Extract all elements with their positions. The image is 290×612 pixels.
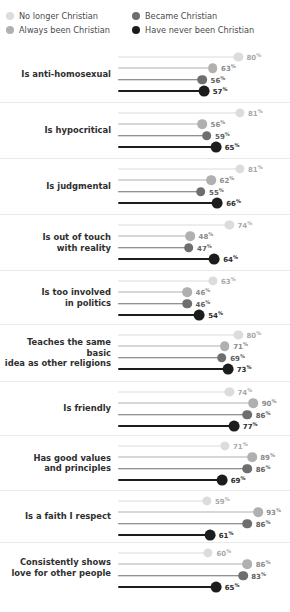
bar-value-label: 61% — [219, 530, 234, 540]
bar-line — [118, 457, 252, 458]
bar-dot — [204, 530, 215, 541]
bar-dot — [204, 548, 213, 557]
bar-dot — [198, 86, 209, 97]
bar-value-label: 47% — [197, 243, 212, 253]
bar-row: 89% — [118, 452, 290, 464]
bar-dot — [194, 310, 205, 321]
bar-value-label: 71% — [233, 341, 248, 351]
bar-dot — [235, 108, 244, 117]
bar-value-label: 86% — [256, 464, 271, 474]
bar-dot — [243, 464, 253, 474]
bar-value-label: 69% — [230, 353, 245, 363]
bar-row: 69% — [118, 352, 290, 364]
bar-rows: 80%71%69%73% — [118, 325, 290, 381]
legend-label: Have never been Christian — [145, 23, 254, 37]
bar-dot — [228, 421, 239, 432]
bar-rows: 63%46%46%54% — [118, 271, 290, 324]
bar-line — [118, 523, 247, 525]
bar-rows: 74%90%86%77% — [118, 382, 290, 435]
bar-row: 47% — [118, 242, 290, 254]
chart-group: Is anti-homosexual80%63%56%57% — [0, 47, 290, 102]
chart-group: Is hypocritical81%56%59%65% — [0, 102, 290, 158]
legend: No longer Christian Became Christian Alw… — [0, 0, 290, 37]
bar-dot — [185, 231, 195, 241]
bar-rows: 60%86%83%65% — [118, 543, 290, 592]
bar-line — [118, 112, 240, 113]
bar-dot — [253, 507, 263, 517]
category-label: Has good values and principles — [0, 453, 118, 474]
legend-label: No longer Christian — [19, 9, 98, 23]
bar-value-label: 60% — [216, 548, 231, 558]
bar-line — [118, 346, 225, 347]
bar-row: 71% — [118, 440, 290, 452]
bar-row: 46% — [118, 287, 290, 299]
bar-line — [118, 403, 253, 404]
bar-value-label: 66% — [226, 198, 241, 208]
category-label: Is anti-homosexual — [0, 69, 118, 80]
bar-value-label: 65% — [225, 582, 240, 592]
bar-row: 77% — [118, 421, 290, 433]
bar-dot — [225, 220, 234, 229]
bar-row: 90% — [118, 398, 290, 410]
bar-dot — [225, 387, 234, 396]
bar-value-label: 56% — [211, 119, 226, 129]
bar-line — [118, 79, 202, 81]
bar-value-label: 55% — [209, 187, 224, 197]
bar-line — [118, 68, 213, 69]
bar-value-label: 93% — [266, 507, 281, 517]
bar-line — [118, 425, 234, 427]
bar-value-label: 89% — [260, 452, 275, 462]
bar-value-label: 56% — [211, 75, 226, 85]
bar-line — [118, 280, 213, 281]
lollipop-chart: Is anti-homosexual80%63%56%57%Is hypocri… — [0, 47, 290, 592]
bar-row: 74% — [118, 219, 290, 231]
bar-dot — [222, 364, 233, 375]
bar-dot — [217, 353, 227, 363]
bar-line — [118, 479, 222, 481]
bar-value-label: 86% — [256, 559, 271, 569]
category-label: Consistently shows love for other people — [0, 557, 118, 578]
bar-dot — [243, 410, 253, 420]
chart-group: Consistently shows love for other people… — [0, 542, 290, 592]
category-label: Teaches the same basic idea as other rel… — [0, 337, 118, 369]
bar-line — [118, 90, 204, 92]
chart-group: Is friendly74%90%86%77% — [0, 381, 290, 435]
bar-dot — [243, 559, 253, 569]
bar-dot — [249, 398, 259, 408]
bar-dot — [212, 198, 223, 209]
bar-dot — [234, 52, 243, 61]
bar-rows: 81%56%59%65% — [118, 103, 290, 158]
bar-line — [118, 575, 243, 577]
bar-value-label: 77% — [243, 421, 258, 431]
chart-group: Is judgmental81%62%55%66% — [0, 158, 290, 214]
bar-row: 86% — [118, 463, 290, 475]
bar-value-label: 86% — [256, 410, 271, 420]
bar-value-label: 46% — [196, 287, 211, 297]
bar-row: 65% — [118, 582, 290, 594]
bar-value-label: 81% — [248, 164, 263, 174]
legend-item-always-been-christian: Always been Christian — [6, 23, 130, 37]
bar-line — [118, 564, 247, 565]
bar-value-label: 80% — [247, 52, 262, 62]
bar-dot — [197, 119, 207, 129]
bar-line — [118, 247, 189, 249]
bar-line — [118, 224, 229, 225]
bar-dot — [210, 582, 221, 593]
chart-group: Teaches the same basic idea as other rel… — [0, 324, 290, 381]
bar-row: 74% — [118, 386, 290, 398]
bar-value-label: 81% — [248, 108, 263, 118]
bar-line — [118, 534, 210, 536]
category-label: Is too involved in politics — [0, 287, 118, 308]
category-label: Is hypocritical — [0, 125, 118, 136]
bar-dot — [243, 519, 253, 529]
bar-dot — [220, 341, 230, 351]
legend-dot-icon — [6, 26, 14, 34]
bar-line — [118, 180, 211, 181]
legend-label: Always been Christian — [19, 23, 110, 37]
bar-value-label: 59% — [215, 496, 230, 506]
bar-row: 81% — [118, 107, 290, 119]
bar-row: 65% — [118, 142, 290, 154]
bar-row: 60% — [118, 547, 290, 559]
bar-line — [118, 468, 247, 470]
bar-value-label: 74% — [237, 220, 252, 230]
